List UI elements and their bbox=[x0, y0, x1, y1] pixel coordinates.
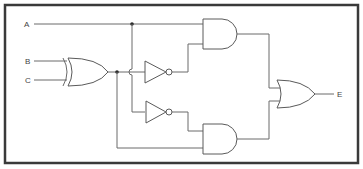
logic-circuit-diagram: A B C E bbox=[0, 0, 363, 169]
diagram-frame bbox=[5, 5, 358, 163]
or-gate bbox=[277, 80, 315, 108]
wire-a-branch bbox=[129, 24, 145, 112]
wire-and1-out bbox=[237, 34, 281, 88]
input-label-a: A bbox=[24, 20, 30, 29]
wire-not1-out bbox=[172, 44, 203, 72]
input-label-b: B bbox=[25, 57, 30, 66]
wire-not2-out bbox=[172, 112, 203, 131]
and-gate-2 bbox=[203, 124, 237, 154]
xor-gate bbox=[63, 58, 108, 86]
not-gate-2 bbox=[146, 101, 172, 123]
input-label-c: C bbox=[25, 76, 31, 85]
wire-and2-out bbox=[237, 101, 281, 139]
and-gate-1 bbox=[203, 19, 237, 49]
not-gate-1 bbox=[145, 61, 172, 83]
output-label-e: E bbox=[337, 90, 342, 99]
